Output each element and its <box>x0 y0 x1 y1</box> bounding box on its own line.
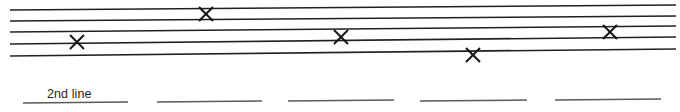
baseline-seg-1 <box>23 102 128 103</box>
baseline-seg-5 <box>555 99 661 100</box>
baseline-seg-4 <box>420 100 527 101</box>
x-marker-3 <box>334 30 348 44</box>
line-5 <box>10 49 676 56</box>
canvas-drawing-surface[interactable] <box>0 0 680 112</box>
label-2nd-line: 2nd line <box>47 88 92 101</box>
baseline-seg-2 <box>157 101 262 102</box>
x-marker-2 <box>70 35 84 49</box>
handwriting-canvas[interactable]: 2nd line <box>0 0 680 112</box>
x-marker-4 <box>466 48 480 62</box>
baseline-seg-3 <box>288 100 394 101</box>
line-3 <box>10 26 676 32</box>
ruled-lines-group <box>10 5 676 56</box>
line-1 <box>10 5 676 10</box>
line-2 <box>10 16 676 21</box>
baseline-segments-group <box>23 99 661 103</box>
